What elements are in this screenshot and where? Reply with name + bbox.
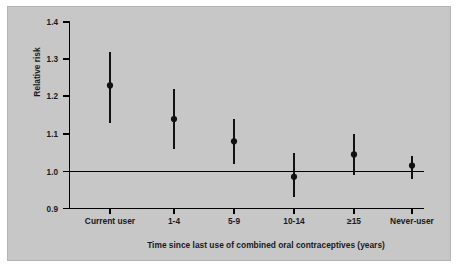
relative-risk-scatter-chart: Relative risk 1.4 1.3 1.2 1.1 1.0 0.9 — [0, 0, 458, 267]
x-axis-ticks — [110, 209, 412, 215]
y-axis-title: Relative risk — [32, 47, 42, 97]
x-label-never-user: Never-user — [390, 216, 435, 226]
y-tick-label-1.2: 1.2 — [47, 92, 59, 101]
y-axis-ticks — [63, 22, 70, 209]
x-axis-title: Time since last use of combined oral con… — [147, 240, 385, 250]
x-axis-category-labels: Current user 1-4 5-9 10-14 ≥15 Never-use… — [85, 216, 435, 226]
y-tick-label-1.4: 1.4 — [47, 18, 59, 27]
x-label-10-14: 10-14 — [283, 216, 305, 226]
figure-container: Relative risk 1.4 1.3 1.2 1.1 1.0 0.9 — [0, 0, 458, 267]
data-point-5-9 — [231, 138, 237, 144]
y-tick-label-1.1: 1.1 — [47, 130, 59, 139]
data-point-current-user — [107, 82, 113, 88]
x-label-5-9: 5-9 — [228, 216, 240, 226]
data-point-never-user — [409, 163, 415, 169]
data-series-group — [107, 52, 415, 197]
y-axis-tick-labels: 1.4 1.3 1.2 1.1 1.0 0.9 — [47, 18, 59, 214]
x-label-15-plus: ≥15 — [347, 216, 361, 226]
x-label-1-4: 1-4 — [168, 216, 180, 226]
data-point-10-14 — [291, 174, 297, 180]
y-tick-label-0.9: 0.9 — [47, 205, 59, 214]
y-tick-label-1.3: 1.3 — [47, 55, 59, 64]
data-point-ge-15 — [351, 151, 357, 157]
x-label-current-user: Current user — [85, 216, 136, 226]
data-point-1-4 — [171, 116, 177, 122]
y-tick-label-1.0: 1.0 — [47, 168, 59, 177]
